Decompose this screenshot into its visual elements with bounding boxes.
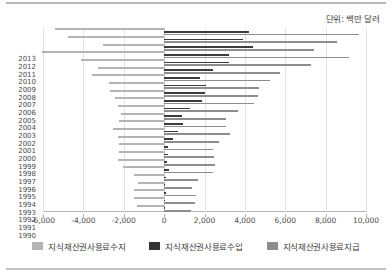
bar-balance xyxy=(119,120,164,122)
x-axis-labels: -6,000-4,000-2,00002,0004,0006,0008,0001… xyxy=(43,214,366,228)
chart-row xyxy=(43,204,366,212)
y-axis-tick-label: 1994 xyxy=(18,202,36,209)
bar-balance xyxy=(81,59,164,61)
chart-row xyxy=(43,36,366,44)
chart-row xyxy=(43,89,366,97)
x-axis-tick-label: 0 xyxy=(162,216,167,225)
legend-label: 지식재산권사용료수입 xyxy=(165,240,242,252)
chart-row xyxy=(43,128,366,136)
chart-row xyxy=(43,189,366,197)
top-divider xyxy=(6,2,386,4)
x-axis-tick-label: 4,000 xyxy=(234,216,255,225)
bar-balance xyxy=(138,182,164,184)
bar-payment xyxy=(164,210,191,212)
chart-row xyxy=(43,105,366,113)
bar-balance xyxy=(110,90,165,92)
bar-balance xyxy=(123,166,164,168)
chart-row xyxy=(43,82,366,90)
chart-row xyxy=(43,43,366,51)
bar-balance xyxy=(119,151,164,153)
chart-row xyxy=(43,120,366,128)
chart-row xyxy=(43,197,366,205)
unit-note: 단위: 백만 달러 xyxy=(326,12,380,24)
bar-balance xyxy=(55,28,164,30)
y-axis-tick-label: 2003 xyxy=(18,133,36,140)
x-axis-tick-label: 2,000 xyxy=(194,216,215,225)
chart-row xyxy=(43,51,366,59)
chart-row xyxy=(43,151,366,159)
chart-row xyxy=(43,28,366,36)
chart-row xyxy=(43,158,366,166)
x-axis-tick-label: -4,000 xyxy=(71,216,95,225)
bottom-divider xyxy=(6,268,386,270)
gridline xyxy=(366,28,367,212)
bar-balance xyxy=(92,74,164,76)
bar-balance xyxy=(118,159,164,161)
chart-row xyxy=(43,181,366,189)
bar-balance xyxy=(103,44,165,46)
chart-row xyxy=(43,166,366,174)
legend-label: 지식재산권사용료지급 xyxy=(283,240,360,252)
bar-balance xyxy=(109,82,165,84)
x-axis-tick-label: 8,000 xyxy=(315,216,336,225)
x-axis-tick-label: -6,000 xyxy=(31,216,55,225)
plot-area xyxy=(43,28,366,212)
legend-item-balance[interactable]: 지식재산권사용료수지 xyxy=(32,240,125,252)
legend-swatch-icon xyxy=(267,242,278,250)
x-axis-tick-label: 6,000 xyxy=(275,216,296,225)
y-axis-tick-label: 1991 xyxy=(18,225,36,232)
chart-legend: 지식재산권사용료수지지식재산권사용료수입지식재산권사용료지급 xyxy=(0,240,392,252)
chart-row xyxy=(43,59,366,67)
chart-row xyxy=(43,66,366,74)
x-axis-tick-label: -2,000 xyxy=(112,216,136,225)
chart-row xyxy=(43,135,366,143)
bar-balance xyxy=(137,205,164,207)
chart-row xyxy=(43,174,366,182)
bar-balance xyxy=(68,36,164,38)
y-axis-tick-label: 2006 xyxy=(18,110,36,117)
bar-balance xyxy=(115,97,164,99)
y-axis-tick-label: 2012 xyxy=(18,64,36,71)
y-axis-labels: 2013201220112010200920082007200620052004… xyxy=(0,28,40,212)
bar-balance xyxy=(98,67,165,69)
x-axis-tick-label: 10,000 xyxy=(353,216,379,225)
bar-balance xyxy=(113,128,164,130)
bar-balance xyxy=(119,143,164,145)
chart-row xyxy=(43,143,366,151)
bar-balance xyxy=(134,197,164,199)
legend-label: 지식재산권사용료수지 xyxy=(48,240,125,252)
chart-row xyxy=(43,97,366,105)
chart-row xyxy=(43,74,366,82)
bar-balance xyxy=(42,51,164,53)
y-axis-tick-label: 1997 xyxy=(18,179,36,186)
bar-balance xyxy=(134,174,164,176)
legend-swatch-icon xyxy=(32,242,43,250)
chart-container: 단위: 백만 달러 201320122011201020092008200720… xyxy=(0,0,392,276)
legend-item-payment[interactable]: 지식재산권사용료지급 xyxy=(267,240,360,252)
bar-balance xyxy=(134,189,164,191)
bar-balance xyxy=(121,113,164,115)
chart-row xyxy=(43,112,366,120)
legend-swatch-icon xyxy=(149,242,160,250)
bar-balance xyxy=(118,105,164,107)
y-axis-tick-label: 1990 xyxy=(18,233,36,240)
bar-balance xyxy=(118,136,164,138)
y-axis-tick-label: 2000 xyxy=(18,156,36,163)
legend-item-income[interactable]: 지식재산권사용료수입 xyxy=(149,240,242,252)
y-axis-tick-label: 2009 xyxy=(18,87,36,94)
